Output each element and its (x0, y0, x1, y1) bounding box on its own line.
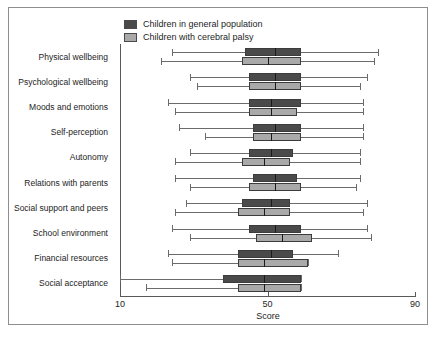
legend-label-cerebral-palsy: Children with cerebral palsy (143, 32, 254, 43)
chart-legend: Children in general population Children … (124, 19, 354, 45)
legend-item-general-population: Children in general population (124, 19, 354, 30)
legend-swatch-dark (124, 20, 137, 29)
boxplot-figure: Children in general population Children … (0, 0, 436, 339)
legend-swatch-light (124, 33, 137, 42)
legend-item-cerebral-palsy: Children with cerebral palsy (124, 32, 354, 43)
figure-border (8, 7, 428, 325)
legend-label-general-population: Children in general population (143, 19, 263, 30)
